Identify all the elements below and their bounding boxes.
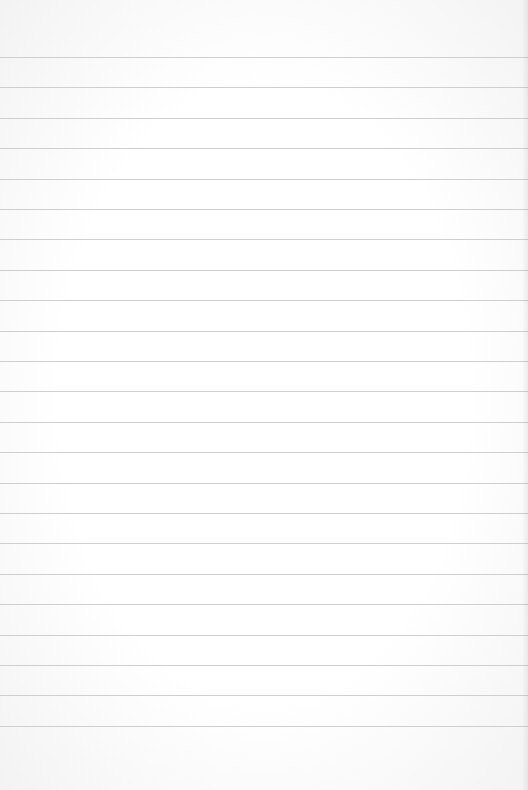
ruled-line (0, 635, 528, 636)
ruled-line (0, 391, 528, 392)
ruled-line (0, 179, 528, 180)
ruled-line (0, 331, 528, 332)
ruled-line (0, 695, 528, 696)
ruled-line (0, 270, 528, 271)
ruled-line (0, 300, 528, 301)
ruled-line (0, 87, 528, 88)
ruled-line (0, 513, 528, 514)
ruled-line (0, 726, 528, 727)
lined-paper-sheet (0, 0, 528, 790)
ruled-line (0, 452, 528, 453)
ruled-line (0, 118, 528, 119)
ruled-line (0, 422, 528, 423)
ruled-line (0, 361, 528, 362)
ruled-line (0, 543, 528, 544)
ruled-line (0, 574, 528, 575)
ruled-line (0, 57, 528, 58)
ruled-line (0, 604, 528, 605)
ruled-line (0, 483, 528, 484)
ruled-line (0, 148, 528, 149)
ruled-line (0, 665, 528, 666)
ruled-line (0, 209, 528, 210)
ruled-line (0, 239, 528, 240)
